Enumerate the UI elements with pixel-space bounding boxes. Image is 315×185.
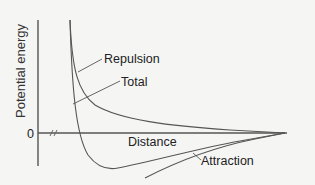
total-label: Total: [121, 75, 147, 89]
repulsion-leader-line: [78, 59, 102, 72]
attraction-label: Attraction: [201, 154, 254, 168]
zero-tick-label: 0: [27, 127, 34, 141]
x-axis-label: Distance: [128, 135, 177, 149]
repulsion-label: Repulsion: [104, 52, 160, 66]
total-curve: [70, 20, 285, 169]
y-axis-label: Potential energy: [13, 24, 28, 118]
diagram-canvas: Repulsion Total Distance Attraction 0 Po…: [0, 0, 315, 185]
repulsion-curve: [70, 20, 285, 133]
potential-energy-diagram: Repulsion Total Distance Attraction 0 Po…: [0, 0, 315, 185]
